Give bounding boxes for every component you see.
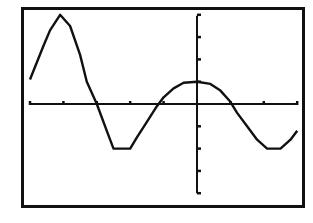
screen-frame	[23, 9, 304, 207]
graph-screen	[0, 0, 313, 223]
